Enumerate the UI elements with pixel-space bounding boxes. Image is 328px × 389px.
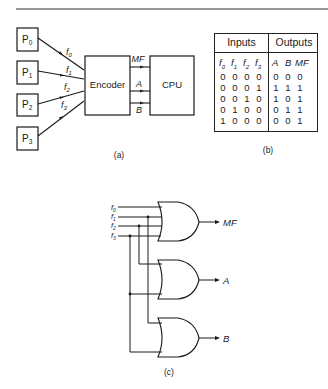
table-cell-output: 0: [271, 104, 281, 115]
table-cell-output: 0: [295, 71, 305, 82]
output-label-mf: MF: [132, 54, 145, 64]
arrowhead: [215, 278, 220, 282]
signal-label-f1: f1: [66, 65, 72, 76]
table-cell-input: 0: [242, 82, 252, 93]
arrowhead: [59, 51, 63, 55]
col-header-f0: f0: [219, 57, 225, 70]
output-label-a: A: [135, 79, 142, 89]
table-cell-output: 1: [295, 82, 305, 93]
gate-output-label-b: B: [223, 333, 230, 344]
figure-a: P0 P1 P2 P3 f0 f1 f2 f3 Encoder CPU MF A…: [17, 28, 194, 160]
table-cell-input: 0: [254, 104, 264, 115]
header-outputs: Outputs: [269, 36, 319, 48]
cpu-label: CPU: [162, 79, 182, 90]
caption-a: (a): [114, 150, 125, 160]
figure-c: f0 f1 f2 f3 MF A B (c): [111, 202, 238, 377]
circuit-input-label-f2: f2: [111, 221, 116, 231]
table-cell-output: 0: [271, 71, 281, 82]
table-cell-input: 0: [254, 71, 264, 82]
processor-label-p1: P1: [22, 67, 33, 79]
table-cell-output: 0: [271, 115, 281, 126]
processor-label-p2: P2: [22, 99, 33, 111]
table-row: 0001111: [215, 82, 319, 93]
table-cell-input: 0: [230, 71, 240, 82]
processor-label-p3: P3: [22, 133, 33, 145]
truth-table: Inputs Outputs f0 f1 f2 f3 A B MF 000000…: [214, 33, 318, 132]
arrowhead: [140, 66, 144, 69]
table-cell-output: 1: [283, 104, 293, 115]
caption-b: (b): [263, 145, 274, 155]
table-cell-input: 1: [242, 93, 252, 104]
col-header-f1: f1: [231, 57, 237, 70]
signal-label-f0: f0: [66, 47, 73, 58]
table-divider-horizontal: [215, 52, 317, 53]
encoder-label: Encoder: [90, 79, 125, 90]
table-cell-output: 0: [283, 115, 293, 126]
table-cell-output: 1: [283, 82, 293, 93]
table-cell-input: 1: [230, 104, 240, 115]
processor-label-p0: P0: [22, 34, 33, 46]
table-cell-input: 0: [230, 115, 240, 126]
table-cell-input: 0: [242, 115, 252, 126]
signal-label-f3: f3: [61, 100, 68, 111]
wire-f3-to-gate-a: [130, 236, 162, 294]
table-cell-output: 1: [295, 115, 305, 126]
table-cell-input: 1: [254, 82, 264, 93]
circuit-input-label-f3: f3: [111, 231, 116, 241]
col-header-b: B: [285, 57, 291, 68]
table-row: 0010101: [215, 93, 319, 104]
table-row: 1000001: [215, 115, 319, 126]
table-row: 0100011: [215, 104, 319, 115]
table-cell-output: 1: [271, 82, 281, 93]
table-cell-output: 0: [283, 71, 293, 82]
gate-output-label-a: A: [222, 275, 229, 286]
arrowhead: [215, 336, 220, 340]
table-cell-input: 0: [230, 93, 240, 104]
header-inputs: Inputs: [215, 36, 268, 48]
table-cell-input: 0: [230, 82, 240, 93]
wire-f1-to-gate-b: [148, 217, 162, 323]
table-cell-input: 1: [218, 115, 228, 126]
table-cell-input: 0: [218, 82, 228, 93]
wire-f2-to-gate-a: [139, 226, 162, 264]
table-cell-input: 0: [218, 93, 228, 104]
col-header-f2: f2: [243, 57, 249, 70]
signal-label-f2: f2: [64, 82, 71, 93]
or-gate-b: [158, 318, 199, 357]
table-cell-input: 0: [218, 104, 228, 115]
col-header-a: A: [272, 57, 278, 68]
table-cell-output: 0: [283, 93, 293, 104]
table-cell-input: 0: [218, 71, 228, 82]
or-gate-mf: [158, 202, 199, 241]
table-cell-output: 1: [295, 104, 305, 115]
col-header-mf: MF: [295, 57, 309, 68]
output-label-b: B: [136, 105, 142, 115]
table-cell-input: 0: [254, 115, 264, 126]
table-cell-input: 0: [242, 104, 252, 115]
arrowhead: [215, 220, 220, 224]
or-gate-a: [158, 260, 199, 299]
table-cell-output: 1: [295, 93, 305, 104]
col-header-f3: f3: [255, 57, 261, 70]
gate-output-label-mf: MF: [223, 217, 238, 228]
table-cell-input: 0: [242, 71, 252, 82]
table-row: 0000000: [215, 71, 319, 82]
table-cell-output: 1: [271, 93, 281, 104]
caption-c: (c): [164, 367, 174, 377]
table-cell-input: 0: [254, 93, 264, 104]
arrowhead: [140, 90, 144, 93]
